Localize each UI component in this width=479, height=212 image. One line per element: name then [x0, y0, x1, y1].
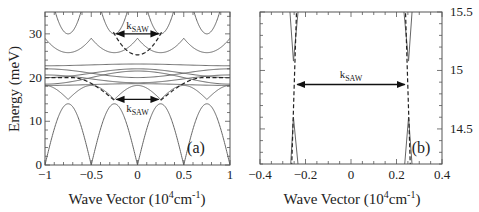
- ksaw-label: kSAW: [126, 102, 149, 117]
- y-tick-label: 14.5: [450, 121, 473, 136]
- y-tick-label: 10: [29, 113, 42, 128]
- chart-figure: −1−0.500.510102030 kSAWkSAW (a) Energy (…: [0, 0, 479, 212]
- y-tick-label: 15: [450, 62, 463, 77]
- panel-b-annotations: kSAW: [297, 68, 404, 84]
- panel-b-label: (b): [412, 139, 431, 157]
- panel-a-x-axis-label: Wave Vector (104cm-1): [69, 189, 206, 208]
- panel-b-x-axis-label: Wave Vector (104cm-1): [284, 189, 421, 208]
- panel-b-tick-labels: −0.4−0.200.20.414.51515.5: [248, 4, 473, 182]
- series-upper-gap-branch: [289, 0, 299, 61]
- series-unfolded-dispersion: [291, 0, 296, 175]
- x-tick-label: 0: [348, 167, 355, 182]
- x-tick-label: −0.4: [248, 167, 272, 182]
- series-upper-band: [45, 38, 230, 52]
- panel-a-label: (a): [187, 139, 205, 157]
- y-tick-label: 0: [36, 157, 43, 172]
- x-tick-label: 0: [134, 167, 141, 182]
- panel-a-annotations: kSAWkSAW: [116, 19, 158, 118]
- x-tick-label: −0.2: [294, 167, 318, 182]
- x-tick-label: 0.5: [176, 167, 192, 182]
- x-tick-label: 1: [227, 167, 234, 182]
- panel-b-curves: [289, 0, 413, 175]
- panel-a-y-axis-label: Energy (meV): [6, 46, 23, 132]
- x-tick-label: 0.4: [434, 167, 451, 182]
- y-tick-label: 30: [29, 26, 42, 41]
- x-tick-label: −0.5: [79, 167, 103, 182]
- panel-b: −0.4−0.200.20.414.51515.5 kSAW (b) Wave …: [248, 0, 473, 208]
- series-flat-band-4: [45, 64, 230, 66]
- ksaw-label: kSAW: [126, 19, 149, 34]
- panel-a: −1−0.500.510102030 kSAWkSAW (a) Energy (…: [6, 0, 233, 208]
- series-upper-gap-branch: [403, 0, 413, 61]
- ksaw-label: kSAW: [340, 68, 363, 83]
- x-tick-label: 0.2: [388, 167, 404, 182]
- y-tick-label: 20: [29, 70, 42, 85]
- y-tick-label: 15.5: [450, 4, 473, 19]
- series-second-band: [45, 85, 230, 99]
